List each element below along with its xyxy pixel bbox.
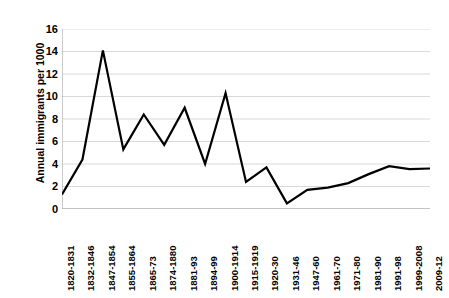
y-tick-label: 14 bbox=[34, 46, 58, 57]
x-tick-label: 1999-2008 bbox=[403, 209, 417, 295]
y-tick-label: 4 bbox=[34, 159, 58, 170]
x-tick-label: 1961-70 bbox=[321, 209, 335, 295]
x-tick-label: 1832-1846 bbox=[75, 209, 89, 295]
x-tick-label: 1920-30 bbox=[259, 209, 273, 295]
x-tick-label: 1894-99 bbox=[198, 209, 212, 295]
plot-area bbox=[62, 29, 430, 209]
x-tick-label: 1991-98 bbox=[382, 209, 396, 295]
y-tick-label: 8 bbox=[34, 114, 58, 125]
x-tick-label: 1847-1854 bbox=[96, 209, 110, 295]
x-tick-label: 1881-93 bbox=[178, 209, 192, 295]
x-tick-label-text: 2009-12 bbox=[434, 256, 444, 291]
x-tick-label: 1865-73 bbox=[137, 209, 151, 295]
y-tick-label: 10 bbox=[34, 91, 58, 102]
y-tick-label: 6 bbox=[34, 136, 58, 147]
line-chart-figure: Annual immigrants per 1000 0246810121416… bbox=[0, 0, 449, 298]
x-tick-label: 1971-80 bbox=[341, 209, 355, 295]
x-tick-label: 1900-1914 bbox=[219, 209, 233, 295]
x-axis-tick-labels: 1820-18311832-18461847-18541855-18641865… bbox=[62, 209, 430, 298]
data-series-line bbox=[62, 50, 430, 203]
plot-svg bbox=[62, 29, 430, 209]
x-tick-label: 1874-1880 bbox=[157, 209, 171, 295]
x-tick-label: 1947-60 bbox=[300, 209, 314, 295]
x-tick-label: 1855-1864 bbox=[116, 209, 130, 295]
y-tick-label: 2 bbox=[34, 181, 58, 192]
x-tick-label: 1931-46 bbox=[280, 209, 294, 295]
x-tick-label: 2009-12 bbox=[423, 209, 437, 295]
y-axis-tick-labels: 0246810121416 bbox=[30, 29, 58, 209]
x-tick-label: 1820-1831 bbox=[55, 209, 69, 295]
x-tick-label: 1981-90 bbox=[362, 209, 376, 295]
y-tick-label: 16 bbox=[34, 24, 58, 35]
x-tick-label: 1915-1919 bbox=[239, 209, 253, 295]
y-tick-label: 12 bbox=[34, 69, 58, 80]
